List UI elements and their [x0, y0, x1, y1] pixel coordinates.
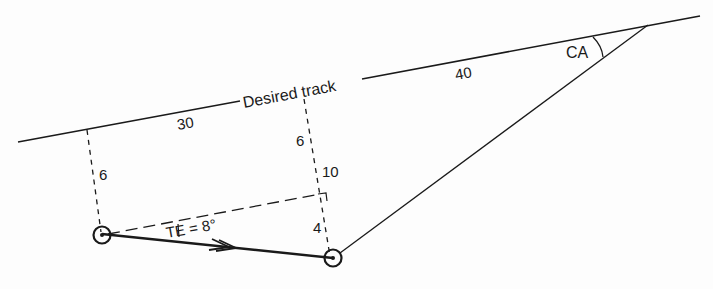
track-error-label: TE = 8° — [165, 215, 218, 241]
actual-track-line — [102, 234, 333, 258]
track-error-diagram: Desired track 30 40 6 6 10 4 TE = 8° CA — [0, 0, 713, 289]
distance-40-label: 40 — [454, 63, 473, 83]
intercept-line — [340, 25, 648, 253]
mid-offset-total-label: 10 — [322, 163, 339, 180]
mid-offset-bottom-label: 4 — [313, 219, 321, 236]
start-position-dot — [100, 233, 104, 237]
closing-angle-label: CA — [566, 44, 589, 61]
right-angle-marker-mid — [318, 193, 327, 201]
left-offset-label: 6 — [99, 166, 107, 183]
mid-offset-top-label: 6 — [296, 132, 304, 149]
desired-track-line-right — [362, 16, 700, 79]
diagram-canvas: Desired track 30 40 6 6 10 4 TE = 8° CA — [0, 0, 713, 289]
desired-track-line-left — [18, 101, 240, 142]
closing-angle-arc — [593, 37, 603, 57]
current-position-dot — [331, 256, 335, 260]
desired-track-label: Desired track — [241, 77, 338, 111]
distance-30-label: 30 — [176, 113, 195, 133]
